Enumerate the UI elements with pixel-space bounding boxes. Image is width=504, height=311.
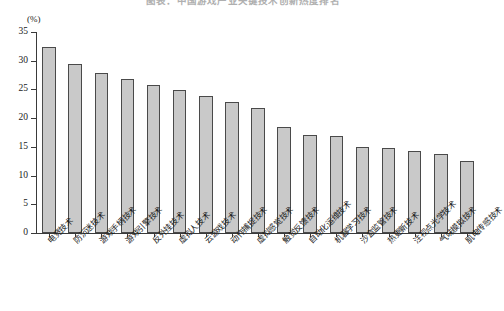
y-axis-tick-label: 10 xyxy=(19,170,29,181)
chart-title: 图表：中国游戏产业关键技术创新热度排名 xyxy=(0,0,486,7)
bar xyxy=(68,64,82,233)
y-axis-tick-label: 30 xyxy=(19,55,29,66)
y-axis-tick-label: 20 xyxy=(19,112,29,123)
y-axis-tick-label: 15 xyxy=(19,141,29,152)
bar xyxy=(42,47,56,233)
y-axis-unit-label: (%) xyxy=(27,14,41,24)
y-axis-tick-label: 35 xyxy=(19,26,29,37)
plot-area xyxy=(36,32,480,233)
y-axis-tick: 0 xyxy=(31,233,36,234)
y-axis-tick-label: 25 xyxy=(19,83,29,94)
y-axis-tick-label: 5 xyxy=(23,198,28,209)
bar xyxy=(95,73,109,233)
y-axis-tick-label: 0 xyxy=(23,227,28,238)
